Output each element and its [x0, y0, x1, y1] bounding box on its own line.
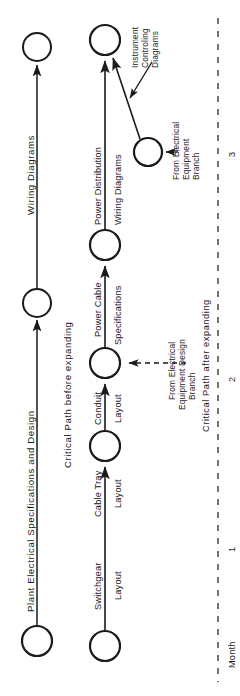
node-upper-left: [23, 289, 51, 317]
annotation-instrument-line2: Controling: [141, 28, 149, 68]
line-instrument-controling-diagrams: [113, 58, 140, 139]
edge-label-conduit-layout: Layout: [114, 394, 123, 423]
month-tick-2: 2: [228, 377, 237, 382]
edge-label-conduit: Conduit: [94, 392, 103, 425]
annotation-from-electrical-equipment-design-branch-line2: Equipment Design: [178, 339, 186, 410]
annotation-from-electrical-equipment-design-branch-line1: From Electrical: [168, 342, 176, 400]
diagram-canvas: Wiring Diagrams Plant Electrical Specifi…: [0, 0, 240, 696]
annotation-instrument-line1: Instrument: [131, 27, 139, 68]
edge-label-power-cable: Power Cable: [94, 282, 103, 337]
month-tick-3: 3: [228, 152, 237, 157]
node-cable-tray: [90, 431, 120, 461]
annotation-from-electrical-equipment-design-branch-line3: Branch: [188, 373, 196, 401]
edge-label-power-distribution: Power Distribution: [94, 147, 103, 225]
edge-label-switchgear: Switchgear: [94, 563, 103, 610]
month-tick-1: 1: [228, 547, 237, 552]
node-conduit-layout: [90, 348, 120, 378]
annotation-from-electrical-equipment-branch-line2: Equipment: [182, 139, 190, 180]
edge-label-wiring-diagrams-left: Wiring Diagrams: [26, 135, 36, 215]
edge-label-power-cable-specifications: Specifications: [114, 286, 123, 346]
annotation-instrument-line3: Diagrams: [151, 31, 159, 68]
node-electrical-equipment-branch: [134, 138, 162, 166]
edge-label-plant-electrical-specifications: Plant Electrical Specifications and Desi…: [26, 410, 36, 612]
node-power-cable: [90, 230, 120, 260]
annotation-critical-path-before-expanding: Critical Path before expanding: [63, 321, 73, 468]
edge-label-cable-tray: Cable Tray: [94, 471, 103, 517]
node-bottom-left-start: [22, 626, 52, 656]
annotation-from-electrical-equipment-branch-line1: From Electrical: [172, 122, 180, 180]
edge-label-switchgear-layout: Layout: [114, 571, 123, 600]
annotation-from-electrical-equipment-branch-line3: Branch: [192, 153, 200, 181]
month-axis-label: Month: [228, 641, 237, 668]
edge-label-wiring-diagrams-right: Wiring Diagrams: [114, 154, 123, 225]
annotation-critical-path-after-expanding: Critical Path after expanding: [202, 299, 211, 432]
edge-label-cable-tray-layout: Layout: [114, 479, 123, 508]
node-top-right: [90, 25, 120, 55]
node-switchgear-start: [90, 631, 120, 661]
node-top-left: [23, 33, 51, 61]
